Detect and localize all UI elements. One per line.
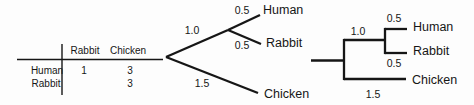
rect-branch-length-rabbit: 0.5 — [387, 58, 402, 69]
table-row-header-rabbit: Rabbit — [32, 79, 61, 89]
slanted-branch-length-internal: 1.0 — [185, 25, 200, 36]
rect-branch-length-internal: 1.0 — [351, 26, 366, 37]
slanted-taxon-chicken: Chicken — [264, 88, 309, 101]
slanted-branch-length-rabbit: 0.5 — [235, 40, 250, 51]
phylogenetic-tree-figure: Rabbit Chicken Human Rabbit 1 3 3 1.0 0.… — [0, 0, 474, 105]
rect-branch-length-chicken: 1.5 — [366, 89, 381, 100]
slanted-taxon-rabbit: Rabbit — [266, 37, 302, 50]
slanted-branch-length-chicken: 1.5 — [195, 78, 210, 89]
rect-branch-length-human: 0.5 — [387, 13, 402, 24]
table-row-header-human: Human — [31, 66, 63, 76]
table-col-header-rabbit: Rabbit — [71, 46, 100, 56]
slanted-branch-length-human: 0.5 — [235, 5, 250, 16]
rect-taxon-rabbit: Rabbit — [413, 45, 449, 58]
table-cell-human-chicken: 3 — [127, 66, 133, 76]
slanted-taxon-human: Human — [263, 4, 303, 17]
rect-taxon-human: Human — [413, 21, 453, 34]
table-cell-rabbit-chicken: 3 — [127, 79, 133, 89]
slanted-branch-root-to-chicken — [166, 57, 258, 93]
table-cell-human-rabbit: 1 — [81, 66, 87, 76]
slanted-branch-internal-to-human — [228, 15, 260, 30]
rect-taxon-chicken: Chicken — [412, 74, 457, 87]
table-col-header-chicken: Chicken — [110, 46, 146, 56]
